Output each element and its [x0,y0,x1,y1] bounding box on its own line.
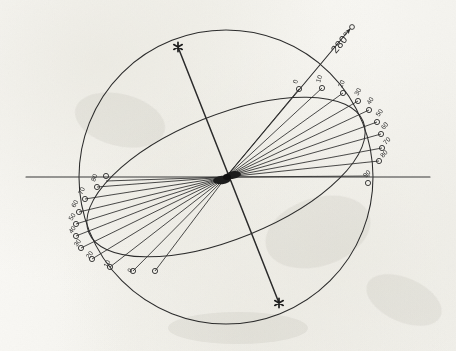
projection-diagram: 280° 0 10 20 30 40 50 60 70 80 90 80 70 … [0,0,456,351]
figure-canvas: 280° 0 10 20 30 40 50 60 70 80 90 80 70 … [0,0,456,351]
